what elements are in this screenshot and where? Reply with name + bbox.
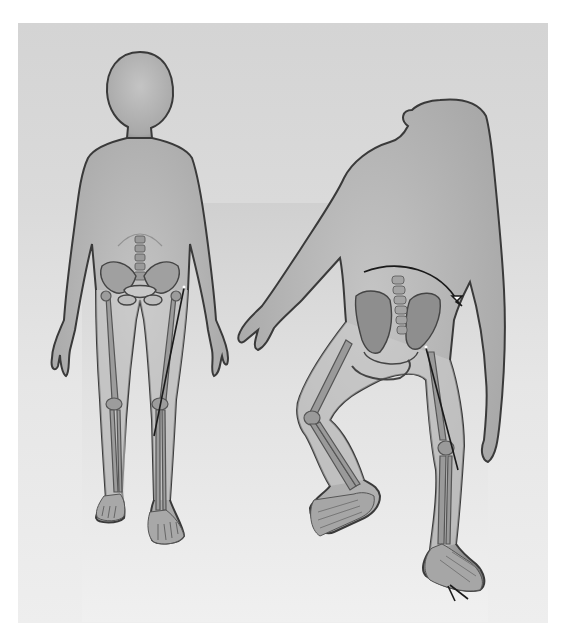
anatomy-illustration	[0, 0, 572, 640]
human-figure	[52, 52, 228, 544]
chimpanzee-figure	[238, 100, 504, 601]
human-head	[107, 52, 173, 138]
human-spine	[134, 236, 146, 280]
human-body	[52, 138, 228, 543]
